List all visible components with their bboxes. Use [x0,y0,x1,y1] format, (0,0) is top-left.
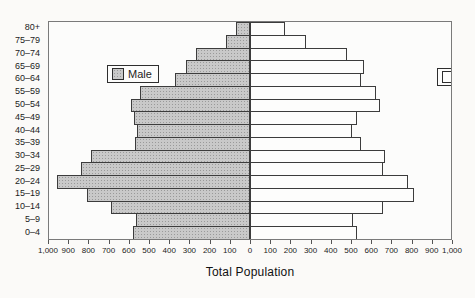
male-bar-5–9 [136,213,250,227]
x-tick-label: 800 [82,246,95,255]
x-tick [230,240,231,244]
x-tick [68,240,69,244]
female-bar-50–54 [250,99,380,113]
male-bar-25–29 [81,162,250,176]
male-bar-15–19 [87,188,250,202]
male-bar-65–69 [186,60,250,74]
x-tick-label: 600 [365,246,378,255]
x-tick-label: 700 [385,246,398,255]
male-bar-50–54 [131,99,250,113]
female-bar-60–64 [250,73,361,87]
population-pyramid-figure: 80+75–7970–7465–6960–6455–5950–5445–4940… [0,0,475,298]
x-tick [250,240,251,244]
x-tick [48,240,49,244]
male-bar-40–44 [137,124,250,138]
x-tick [351,240,352,244]
age-label-10–14: 10–14 [0,202,40,211]
male-bar-75–79 [226,35,250,49]
axis-title: Total Population [48,265,452,279]
female-bar-55–59 [250,86,376,100]
age-label-30–34: 30–34 [0,151,40,160]
x-tick [452,240,453,244]
x-tick-label: 200 [284,246,297,255]
x-tick-label: 400 [163,246,176,255]
male-swatch-icon [112,68,124,80]
age-label-70–74: 70–74 [0,49,40,58]
male-bar-10–14 [111,201,250,215]
age-label-75–79: 75–79 [0,36,40,45]
male-bar-45–49 [134,111,250,125]
x-tick-label: 500 [142,246,155,255]
x-tick [290,240,291,244]
female-bar-15–19 [250,188,414,202]
x-tick-label: 700 [102,246,115,255]
age-label-5–9: 5–9 [0,215,40,224]
x-tick [109,240,110,244]
x-tick [391,240,392,244]
age-label-65–69: 65–69 [0,62,40,71]
x-tick-label: 800 [405,246,418,255]
x-tick [270,240,271,244]
x-tick-label: 400 [324,246,337,255]
x-tick [88,240,89,244]
x-tick-label: 200 [203,246,216,255]
x-tick-label: 300 [183,246,196,255]
legend-female: Female [437,68,452,86]
x-tick-label: 100 [223,246,236,255]
x-tick-label: 1,000 [442,246,462,255]
x-tick [412,240,413,244]
age-label-45–49: 45–49 [0,113,40,122]
female-bar-5–9 [250,213,353,227]
female-bar-70–74 [250,48,347,62]
plot-area: Male Female [48,21,452,240]
female-bar-65–69 [250,60,364,74]
x-tick [189,240,190,244]
x-tick [331,240,332,244]
male-bar-80+ [236,22,250,36]
age-label-0–4: 0–4 [0,228,40,237]
x-tick-label: 1,000 [38,246,58,255]
age-label-15–19: 15–19 [0,189,40,198]
female-swatch-icon [442,71,452,83]
age-group-axis: 80+75–7970–7465–6960–6455–5950–5445–4940… [0,21,44,240]
female-bar-35–39 [250,137,361,151]
x-axis-ticks [48,240,452,245]
male-bar-60–64 [175,73,250,87]
x-tick [311,240,312,244]
x-tick [169,240,170,244]
age-label-55–59: 55–59 [0,87,40,96]
male-bar-35–39 [135,137,250,151]
female-bar-45–49 [250,111,357,125]
x-tick-label: 0 [248,246,252,255]
female-bar-30–34 [250,150,385,164]
female-bar-10–14 [250,201,383,215]
x-tick-label: 500 [344,246,357,255]
female-bar-75–79 [250,35,306,49]
age-label-40–44: 40–44 [0,126,40,135]
age-label-25–29: 25–29 [0,164,40,173]
male-bar-20–24 [57,175,250,189]
x-tick [432,240,433,244]
age-label-80+: 80+ [0,23,40,32]
male-bar-0–4 [133,226,250,240]
legend-male: Male [107,65,159,83]
male-bar-30–34 [91,150,250,164]
legend-male-label: Male [128,68,152,80]
x-tick [210,240,211,244]
x-tick [149,240,150,244]
age-label-35–39: 35–39 [0,138,40,147]
x-tick-label: 100 [264,246,277,255]
female-bar-20–24 [250,175,408,189]
x-tick [371,240,372,244]
female-bar-80+ [250,22,285,36]
x-tick [129,240,130,244]
x-tick-label: 300 [304,246,317,255]
age-label-50–54: 50–54 [0,100,40,109]
age-label-20–24: 20–24 [0,177,40,186]
x-axis-tick-labels: 1,00090080070060050040030020010001002003… [48,246,452,256]
female-bar-0–4 [250,226,357,240]
x-tick-label: 900 [62,246,75,255]
x-tick-label: 900 [425,246,438,255]
male-bar-55–59 [140,86,250,100]
male-bar-70–74 [196,48,250,62]
